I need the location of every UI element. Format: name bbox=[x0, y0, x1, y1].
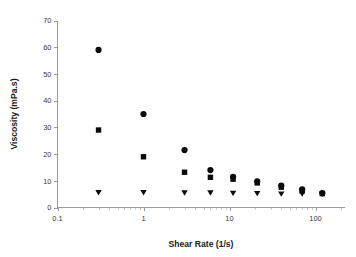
data-point-square-5 bbox=[255, 180, 260, 185]
data-point-circle-1 bbox=[140, 111, 146, 117]
data-point-square-3 bbox=[208, 175, 213, 180]
y-tick-label: 20 bbox=[43, 150, 51, 159]
y-tick-label: 40 bbox=[43, 96, 51, 105]
x-axis-title: Shear Rate (1/s) bbox=[169, 239, 234, 249]
y-tick-label: 0 bbox=[47, 203, 51, 212]
data-point-circle-0 bbox=[95, 47, 101, 53]
x-tick-label: 0.1 bbox=[52, 214, 62, 223]
data-point-square-6 bbox=[279, 184, 284, 189]
scatter-chart: 010203040506070 0.1110100 Shear Rate (1/… bbox=[0, 0, 356, 257]
y-tick-label: 60 bbox=[43, 43, 51, 52]
x-tick-label: 1 bbox=[141, 214, 145, 223]
y-tick-label: 10 bbox=[43, 177, 51, 186]
y-tick-label: 30 bbox=[43, 123, 51, 132]
y-axis-title: Viscosity (mPa.s) bbox=[9, 78, 19, 149]
y-tick-label: 70 bbox=[43, 16, 51, 25]
x-tick-label: 10 bbox=[225, 214, 233, 223]
data-point-square-2 bbox=[182, 170, 187, 175]
x-tick-label: 100 bbox=[309, 214, 322, 223]
data-point-square-1 bbox=[141, 154, 146, 159]
data-point-square-4 bbox=[230, 176, 235, 181]
data-point-circle-2 bbox=[181, 147, 187, 153]
y-tick-label: 50 bbox=[43, 70, 51, 79]
chart-canvas: 010203040506070 0.1110100 Shear Rate (1/… bbox=[0, 0, 356, 257]
data-point-square-0 bbox=[96, 127, 101, 132]
data-point-circle-3 bbox=[207, 167, 213, 173]
